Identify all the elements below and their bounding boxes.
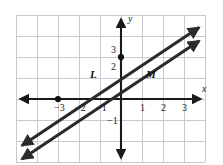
point-L-y-intercept xyxy=(118,54,124,60)
grid-lines xyxy=(16,15,205,162)
y-tick-label-2: 2 xyxy=(111,62,116,72)
line-label-M: M xyxy=(146,69,156,80)
coordinate-plane-svg xyxy=(0,0,223,165)
x-tick-label-neg3: −3 xyxy=(54,103,65,113)
y-axis-label: y xyxy=(128,14,132,24)
x-axis-label: x xyxy=(202,84,206,94)
x-tick-label-2: 2 xyxy=(161,103,166,113)
y-tick-label-3: 3 xyxy=(111,45,116,55)
axis-lines xyxy=(20,19,201,158)
y-tick-label-neg1: −1 xyxy=(107,116,118,126)
x-tick-label-3: 3 xyxy=(182,103,187,113)
graph-figure: x y −3 −2 −1 1 2 3 3 2 −1 L M xyxy=(0,0,223,165)
x-tick-label-neg1: −1 xyxy=(96,103,107,113)
line-label-L: L xyxy=(90,69,97,80)
x-tick-label-neg2: −2 xyxy=(75,103,86,113)
x-tick-label-1: 1 xyxy=(140,103,145,113)
